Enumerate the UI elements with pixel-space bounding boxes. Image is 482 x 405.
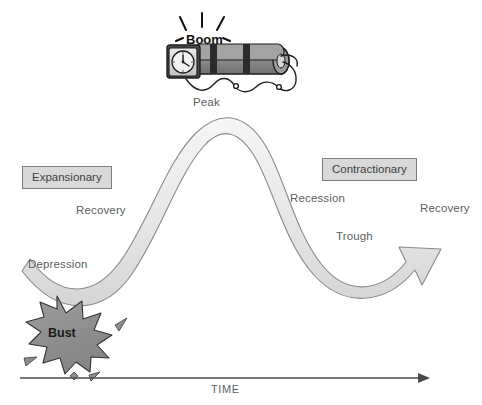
diagram-vector-layer (0, 0, 482, 405)
time-axis-label: TIME (211, 383, 240, 395)
alarm-clock-icon (167, 45, 200, 78)
bomb-band (243, 44, 250, 74)
arrow-right-icon (418, 373, 430, 383)
bomb-band (210, 44, 217, 74)
contractionary-box: Contractionary (322, 158, 417, 181)
time-axis (20, 373, 430, 383)
depression-label: Depression (28, 258, 88, 270)
boom-label: Boom (186, 32, 223, 47)
trough-label: Trough (336, 230, 373, 242)
dynamite-bomb-icon (167, 13, 297, 92)
business-cycle-diagram: Boom Bust Peak Expansionary Contractiona… (0, 0, 482, 405)
recovery-right-label: Recovery (420, 202, 470, 214)
recession-label: Recession (290, 192, 345, 204)
expansionary-box: Expansionary (22, 166, 112, 189)
peak-label: Peak (193, 96, 220, 108)
recovery-left-label: Recovery (76, 204, 126, 216)
bust-label: Bust (48, 326, 76, 340)
spark-lines-icon (180, 13, 224, 30)
